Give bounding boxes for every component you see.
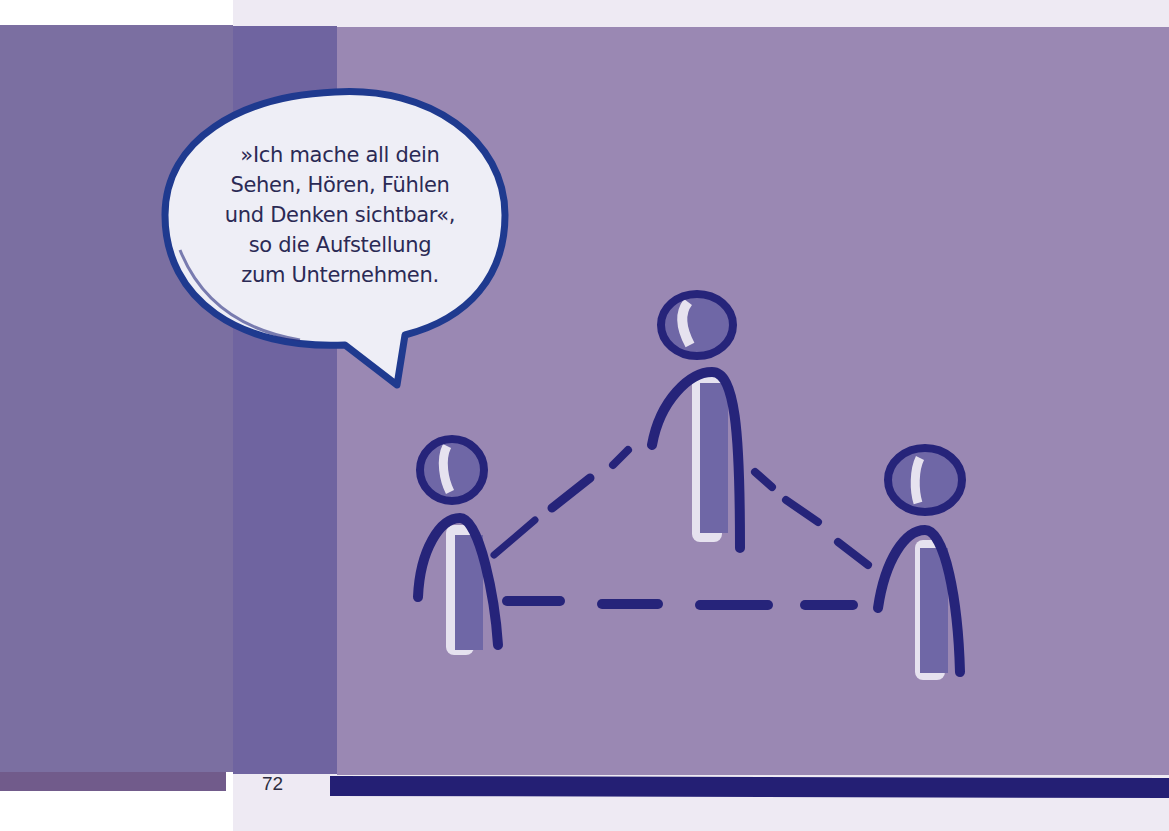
bubble-line: »Ich mache all dein <box>190 140 490 170</box>
illustration <box>0 0 1169 831</box>
left-figure-icon <box>418 439 498 655</box>
bubble-line: zum Unternehmen. <box>190 260 490 290</box>
right-figure-icon <box>878 448 962 680</box>
bubble-line: und Denken sichtbar«, <box>190 200 490 230</box>
speech-bubble-text: »Ich mache all dein Sehen, Hören, Fühlen… <box>190 140 490 290</box>
dashed-connection-lines <box>494 450 868 605</box>
top-figure-icon <box>652 294 740 548</box>
bubble-line: so die Aufstellung <box>190 230 490 260</box>
bubble-line: Sehen, Hören, Fühlen <box>190 170 490 200</box>
